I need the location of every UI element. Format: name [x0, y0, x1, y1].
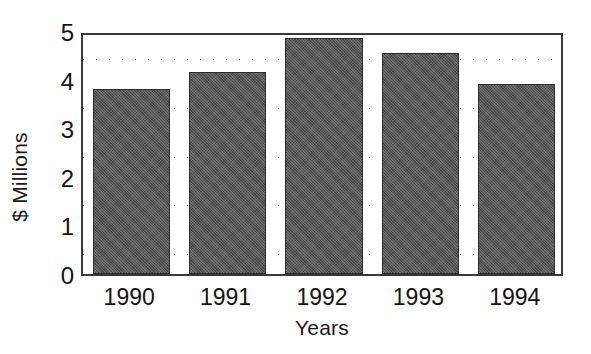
- y-tick-label-5: 5: [34, 21, 74, 45]
- bar-1994: [478, 84, 555, 274]
- bar-series: [83, 35, 561, 274]
- bar-1991: [189, 72, 266, 274]
- bar-1990: [93, 89, 170, 274]
- x-axis-tick-labels: 19901991199219931994: [81, 286, 563, 316]
- x-tick-label-1994: 1994: [467, 286, 563, 309]
- y-tick-label-2: 2: [34, 167, 74, 191]
- y-axis-tick-labels: 012345: [30, 0, 74, 354]
- bar-1993: [382, 53, 459, 274]
- x-tick-label-1993: 1993: [370, 286, 466, 309]
- y-tick-label-1: 1: [34, 215, 74, 239]
- x-tick-label-1991: 1991: [177, 286, 273, 309]
- y-tick-label-4: 4: [34, 70, 74, 94]
- bar-chart: $ Millions 012345 19901991199219931994 Y…: [0, 0, 591, 354]
- x-tick-label-1992: 1992: [274, 286, 370, 309]
- plot-area: [81, 33, 563, 276]
- x-axis-title: Years: [81, 316, 563, 340]
- x-tick-label-1990: 1990: [81, 286, 177, 309]
- bar-1992: [285, 38, 362, 274]
- y-tick-label-3: 3: [34, 118, 74, 142]
- y-tick-label-0: 0: [34, 264, 74, 288]
